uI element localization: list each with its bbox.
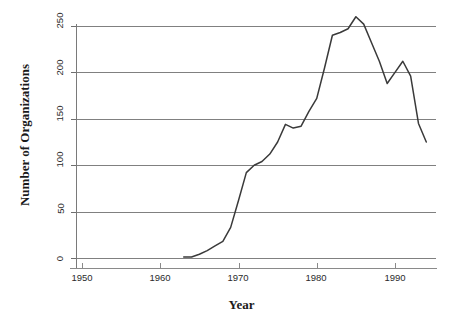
data-series-line [184,17,427,257]
chart-figure: Number of Organizations 0 50 100 150 200… [0,0,459,323]
plot-area [0,0,459,323]
gridlines [77,27,436,259]
